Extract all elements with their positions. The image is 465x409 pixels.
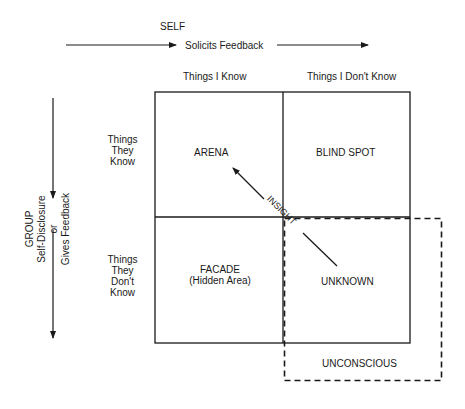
hidden-area-label: (Hidden Area)	[175, 275, 265, 286]
quadrant-unknown: UNKNOWN	[321, 276, 374, 287]
row-text: Things	[100, 134, 145, 145]
self-label: SELF	[160, 21, 185, 32]
row-text: Don't	[100, 276, 145, 287]
row-text: Things	[100, 254, 145, 265]
unconscious-region-outline	[285, 219, 442, 381]
row-header-things-they-dont-know: Things They Don't Know	[100, 254, 145, 298]
row-text: Know	[100, 287, 145, 298]
row-text: They	[100, 265, 145, 276]
or-label: or	[48, 169, 60, 289]
row-text: They	[100, 145, 145, 156]
column-header-things-i-dont-know: Things I Don't Know	[307, 71, 396, 82]
gives-feedback-label: Gives Feedback	[60, 169, 72, 289]
left-axis-label: GROUP Self-Disclosure or Gives Feedback	[24, 169, 72, 289]
row-header-things-they-know: Things They Know	[100, 134, 145, 167]
row-text: Know	[100, 156, 145, 167]
self-disclosure-label: Self-Disclosure	[36, 169, 48, 289]
solicits-feedback-label: Solicits Feedback	[185, 40, 263, 51]
column-header-things-i-know: Things I Know	[183, 71, 246, 82]
facade-label: FACADE	[175, 264, 265, 275]
quadrant-facade: FACADE (Hidden Area)	[175, 264, 265, 286]
unconscious-label: UNCONSCIOUS	[322, 358, 397, 369]
group-label: GROUP	[24, 169, 36, 289]
quadrant-blind-spot: BLIND SPOT	[316, 147, 375, 158]
quadrant-arena: ARENA	[194, 147, 228, 158]
